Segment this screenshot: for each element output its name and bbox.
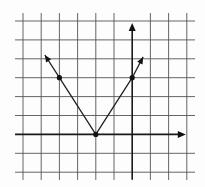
left-branch-arrow-icon bbox=[45, 55, 51, 63]
right-branch-line bbox=[96, 57, 143, 134]
data-point bbox=[57, 75, 62, 80]
coordinate-plane bbox=[0, 0, 205, 187]
x-axis-arrow-icon bbox=[178, 131, 186, 138]
data-point bbox=[93, 132, 98, 137]
left-branch-line bbox=[45, 55, 96, 134]
grid bbox=[15, 13, 195, 180]
axes bbox=[15, 23, 186, 180]
y-axis-arrow-icon bbox=[129, 23, 136, 31]
data-point bbox=[130, 75, 135, 80]
